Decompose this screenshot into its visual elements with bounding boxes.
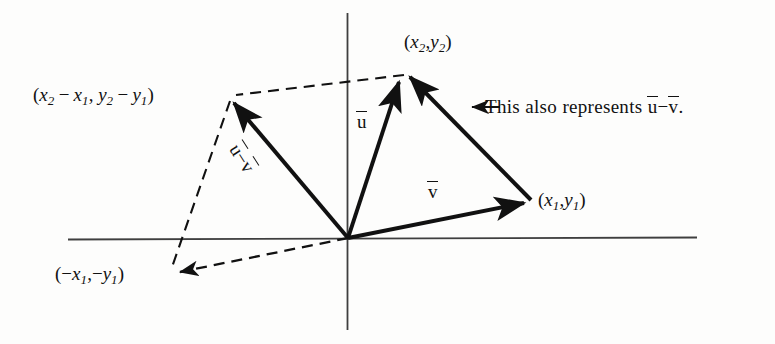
point-label-x1y1: (x1,y1)	[538, 190, 586, 212]
paren-close: )	[579, 189, 585, 210]
v-overbar-glyph: v	[428, 181, 438, 201]
point-label-negative: (−x1,−y1)	[55, 264, 124, 286]
point-label-difference: (x2−x1, y2−y1)	[33, 85, 154, 107]
dashed-line-origin-to-negative	[180, 238, 348, 272]
v-overbar-glyph: v	[669, 96, 679, 116]
vector-label-v: v	[428, 181, 438, 201]
minus-y: −	[92, 263, 103, 284]
callout-word-represents: represents	[562, 96, 647, 117]
var-x: x	[410, 31, 418, 52]
var-x2: x	[39, 84, 47, 105]
comma: ,	[89, 84, 94, 105]
vector-u-arrow	[348, 82, 399, 238]
minus-x: −	[54, 84, 73, 105]
var-x1: x	[74, 84, 82, 105]
var-y2: y	[98, 84, 106, 105]
minus-x: −	[61, 263, 72, 284]
x-axis	[68, 238, 697, 240]
callout-word-also: also	[525, 96, 562, 117]
paren-close: )	[118, 263, 124, 284]
diagram-canvas	[0, 0, 775, 344]
var-x: x	[544, 189, 552, 210]
dashed-line-left	[171, 101, 230, 270]
sub-x1: 1	[82, 93, 89, 108]
vector-diagram-figure: (x2,y2) (x2−x1, y2−y1) (x1,y1) (−x1,−y1)…	[0, 0, 775, 344]
paren-close: )	[445, 31, 451, 52]
point-label-x2y2: (x2,y2)	[404, 32, 452, 54]
paren-close: )	[148, 84, 154, 105]
sub-y1: 1	[141, 93, 148, 108]
var-y: y	[564, 189, 572, 210]
dashed-line-top	[236, 75, 404, 95]
minus-y: −	[113, 84, 132, 105]
u-overbar-glyph: u	[648, 96, 658, 116]
u-overbar-glyph: u	[357, 111, 367, 131]
var-y1: y	[132, 84, 140, 105]
sub-y: 1	[111, 272, 118, 287]
callout-period: .	[678, 96, 683, 117]
minus-sign: −	[658, 96, 669, 117]
var-y: y	[103, 263, 111, 284]
callout-word-this: This	[485, 96, 525, 117]
callout-annotation: Thisalsorepresentsu−v.	[485, 96, 683, 116]
var-y: y	[430, 31, 438, 52]
vector-label-u: u	[357, 111, 367, 131]
vector-v-arrow	[348, 203, 524, 238]
